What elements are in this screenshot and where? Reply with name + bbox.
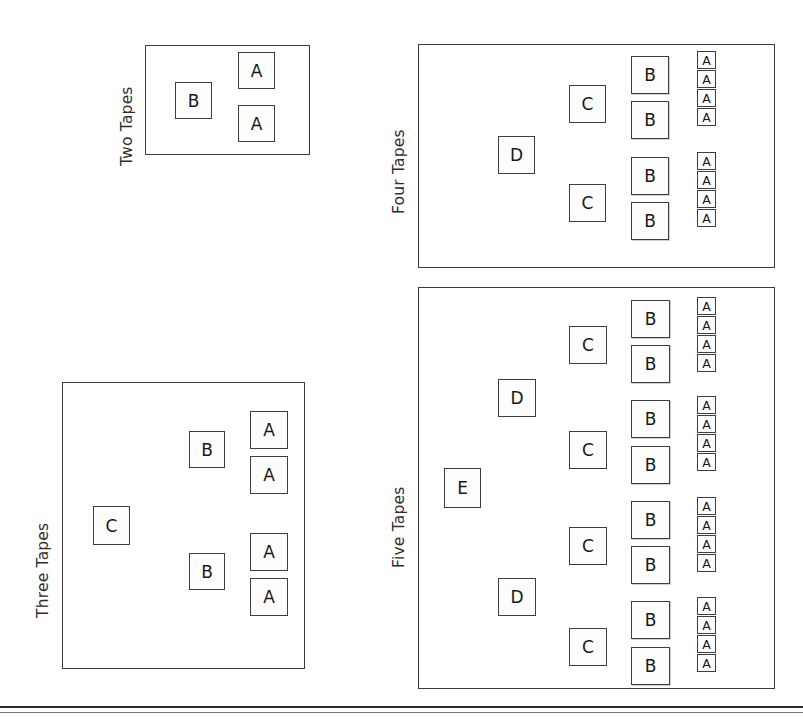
- node-a-leaf: A: [697, 152, 716, 170]
- node-b: B: [631, 56, 669, 94]
- node-a: A: [238, 52, 275, 89]
- node-b: B: [189, 431, 225, 468]
- node-b: B: [631, 345, 670, 383]
- node-a-leaf: A: [697, 497, 716, 515]
- node-a-leaf: A: [697, 297, 716, 315]
- panel-caption-three-tapes: Three Tapes: [34, 523, 52, 618]
- panel-caption-two-tapes: Two Tapes: [118, 86, 136, 166]
- node-a-leaf: A: [697, 108, 716, 126]
- node-b: B: [631, 446, 670, 484]
- node-b: B: [631, 157, 669, 195]
- node-a-leaf: A: [697, 190, 716, 208]
- node-b: B: [631, 202, 669, 240]
- node-a-leaf: A: [697, 554, 716, 572]
- node-b: B: [631, 601, 670, 639]
- node-a-leaf: A: [697, 209, 716, 227]
- node-a-leaf: A: [697, 335, 716, 353]
- panel-caption-five-tapes: Five Tapes: [390, 486, 408, 568]
- node-b: B: [631, 546, 670, 584]
- node-a-leaf: A: [697, 597, 716, 615]
- node-a-leaf: A: [697, 354, 716, 372]
- node-a-leaf: A: [697, 396, 716, 414]
- node-c: C: [569, 431, 607, 469]
- panel-caption-four-tapes: Four Tapes: [390, 129, 408, 214]
- panel-four-tapes: [418, 44, 775, 268]
- panel-two-tapes: [145, 45, 310, 155]
- node-a: A: [238, 105, 275, 142]
- node-a-leaf: A: [697, 535, 716, 553]
- node-c: C: [569, 184, 606, 222]
- node-a: A: [250, 456, 288, 494]
- node-a: A: [250, 411, 288, 449]
- node-a: A: [250, 578, 288, 616]
- page-rule: [0, 706, 803, 708]
- node-a-leaf: A: [697, 654, 716, 672]
- node-c: C: [569, 527, 607, 565]
- node-a: A: [250, 533, 288, 571]
- node-b: B: [631, 101, 669, 139]
- node-a-leaf: A: [697, 89, 716, 107]
- node-a-leaf: A: [697, 453, 716, 471]
- node-b: B: [631, 400, 670, 438]
- node-a-leaf: A: [697, 316, 716, 334]
- node-a-leaf: A: [697, 51, 716, 69]
- node-d: D: [498, 379, 536, 417]
- node-b: B: [175, 82, 212, 119]
- node-d: D: [498, 578, 536, 616]
- node-a-leaf: A: [697, 516, 716, 534]
- node-b: B: [631, 300, 670, 338]
- figure-canvas: Two TapesBAAThree TapesCBAABAAFour Tapes…: [0, 0, 803, 726]
- node-b: B: [631, 647, 670, 685]
- node-a-leaf: A: [697, 415, 716, 433]
- node-a-leaf: A: [697, 70, 716, 88]
- node-c: C: [569, 326, 607, 364]
- node-d: D: [498, 136, 535, 174]
- node-b: B: [631, 501, 670, 539]
- node-a-leaf: A: [697, 635, 716, 653]
- node-b: B: [189, 553, 225, 590]
- node-e: E: [444, 468, 481, 508]
- node-c: C: [569, 628, 607, 666]
- node-a-leaf: A: [697, 616, 716, 634]
- node-a-leaf: A: [697, 171, 716, 189]
- node-a-leaf: A: [697, 434, 716, 452]
- page-rule: [0, 712, 803, 713]
- node-c: C: [93, 506, 130, 545]
- node-c: C: [569, 85, 606, 123]
